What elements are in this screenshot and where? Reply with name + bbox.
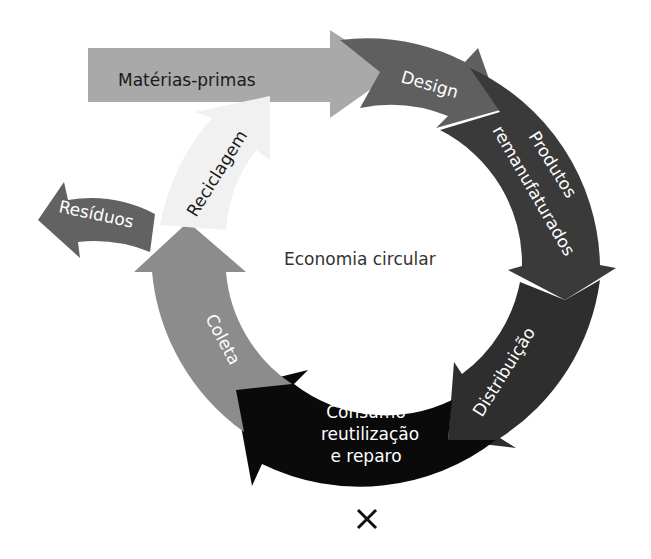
close-icon [350,502,384,536]
raw-materials-label: Matérias-primas [118,70,256,90]
close-button[interactable] [350,502,384,536]
stage-distribuicao [448,280,600,448]
consumo-label-line3: e reparo [330,446,401,466]
consumo-label-line1: Consumo [326,402,406,422]
center-title: Economia circular [284,249,436,269]
circular-economy-diagram: Matérias-primas Design Produtos remanufa… [0,0,651,559]
consumo-label-line2: reutilização [321,424,419,444]
